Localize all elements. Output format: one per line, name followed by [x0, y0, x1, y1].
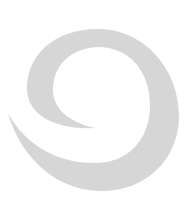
swirl-logo	[0, 0, 191, 205]
swirl-logo-icon	[0, 0, 191, 205]
swirl-shape	[8, 29, 179, 191]
